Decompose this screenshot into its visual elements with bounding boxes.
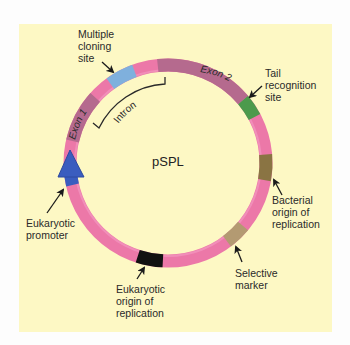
promoter-arrow-icon bbox=[58, 150, 84, 177]
segment-eukaryotic-origin bbox=[138, 256, 163, 261]
segment-selective-marker bbox=[227, 226, 243, 241]
exon1-label: Exon 1 bbox=[66, 107, 89, 141]
bacterial-ori-pointer bbox=[274, 180, 282, 195]
bacterial-ori-label: Bacterial origin of replication bbox=[272, 194, 320, 230]
intron-label: Intron bbox=[111, 99, 138, 125]
selective-marker-pointer bbox=[236, 247, 242, 262]
segment-tail-recognition-site bbox=[243, 100, 254, 117]
plasmid-name: pSPL bbox=[152, 154, 184, 169]
eukaryotic-ori-pointer bbox=[137, 268, 144, 279]
segment-multiple-cloning-site bbox=[110, 71, 134, 84]
promoter-label: Eukaryotic promoter bbox=[26, 217, 75, 241]
selective-marker-label: Selective marker bbox=[235, 267, 278, 291]
eukaryotic-ori-label: Eukaryotic origin of replication bbox=[116, 283, 165, 319]
svg-text:Exon 1: Exon 1 bbox=[66, 107, 89, 141]
tail-pointer bbox=[250, 86, 262, 97]
promoter-pointer bbox=[47, 190, 63, 213]
segment-bacterial-origin bbox=[265, 154, 266, 180]
tail-recognition-label: Tail recognition site bbox=[265, 67, 316, 103]
svg-text:Intron: Intron bbox=[111, 99, 138, 125]
plasmid-map: Exon 1 Exon 2 Intron bbox=[0, 0, 350, 345]
mcs-label: Multiple cloning site bbox=[78, 28, 114, 64]
